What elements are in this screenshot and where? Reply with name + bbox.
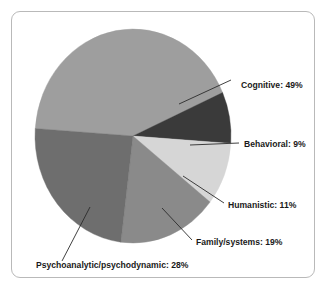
pie-slice-group bbox=[35, 29, 231, 243]
pie-label-humanistic: Humanistic: 11% bbox=[228, 200, 297, 210]
pie-label-family-systems: Family/systems: 19% bbox=[196, 237, 283, 247]
pie-label-psychoanalytic-psychodynamic: Psychoanalytic/psychodynamic: 28% bbox=[36, 260, 189, 270]
pie-label-cognitive: Cognitive: 49% bbox=[241, 80, 303, 90]
figure-caption bbox=[44, 287, 324, 302]
pie-chart-figure: Cognitive: 49%Behavioral: 9%Humanistic: … bbox=[0, 0, 334, 302]
pie-slice-psychoanalytic-psychodynamic bbox=[35, 129, 133, 243]
pie-chart-canvas: Cognitive: 49%Behavioral: 9%Humanistic: … bbox=[0, 0, 334, 302]
pie-label-behavioral: Behavioral: 9% bbox=[244, 139, 306, 149]
